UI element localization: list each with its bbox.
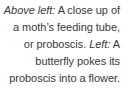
caption-lead-in-above-left: Above left: [4, 4, 55, 16]
caption-entry-above-left: Above left: A close up of a moth’s feedi… [3, 2, 120, 87]
caption-lead-in-left: Left: [89, 38, 110, 50]
photo-caption-block: Above left: A close up of a moth’s feedi… [0, 0, 128, 107]
